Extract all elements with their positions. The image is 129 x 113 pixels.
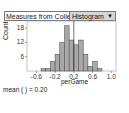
histogram-bar <box>60 42 65 71</box>
histogram-bar <box>97 69 102 71</box>
histogram-bar <box>50 61 55 71</box>
histogram-bar <box>88 66 93 71</box>
x-tick-label: 0.6 <box>88 73 97 80</box>
y-tick-label: 18 <box>17 24 25 31</box>
histogram-bar <box>64 26 69 71</box>
histogram-bar <box>79 40 84 71</box>
histogram-bar <box>46 69 51 71</box>
histogram-plot: 61218-0.6-0.20.20.61.0 <box>0 0 129 113</box>
x-tick-label: -0.6 <box>31 73 43 80</box>
y-tick-label: 6 <box>20 53 24 60</box>
histogram-bar <box>83 54 88 71</box>
histogram-bar <box>55 54 60 71</box>
histogram-bar <box>69 40 74 71</box>
y-tick-label: 12 <box>17 38 25 45</box>
histogram-bar <box>41 69 46 71</box>
x-tick-label: 1.0 <box>107 73 116 80</box>
x-axis-label: perGame <box>61 78 88 85</box>
x-tick-label: -0.2 <box>50 73 62 80</box>
y-axis-label: Count <box>2 21 9 40</box>
histogram-bar <box>93 61 98 71</box>
mean-readout: mean ( ) = 0.20 <box>3 86 47 93</box>
histogram-bar <box>74 45 79 71</box>
